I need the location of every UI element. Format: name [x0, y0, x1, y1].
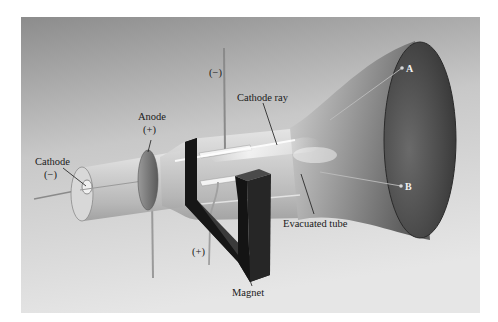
cathode-ray-tube-figure: Cathode (−) Anode (+) (−) Cathode ray Ev… — [0, 0, 498, 322]
evacuated-tube-label: Evacuated tube — [283, 218, 348, 229]
bottom-plate-sign-label: (+) — [192, 246, 205, 258]
point-b-label: B — [405, 181, 412, 192]
point-a-marker — [400, 66, 404, 70]
anode-disc — [138, 150, 158, 210]
point-b-marker — [399, 184, 403, 188]
cathode-disc — [82, 180, 92, 194]
cathode-sign-label: (−) — [44, 169, 57, 181]
anode-label: Anode — [138, 111, 166, 122]
top-plate-sign-label: (−) — [209, 67, 222, 79]
anode-sign-label: (+) — [143, 124, 156, 136]
cathode-ray-label: Cathode ray — [237, 92, 289, 103]
magnet-label: Magnet — [232, 287, 264, 298]
top-plate-rod — [224, 48, 225, 152]
fluorescent-screen — [384, 42, 456, 238]
cathode-label: Cathode — [35, 156, 70, 167]
point-a-label: A — [406, 63, 414, 74]
